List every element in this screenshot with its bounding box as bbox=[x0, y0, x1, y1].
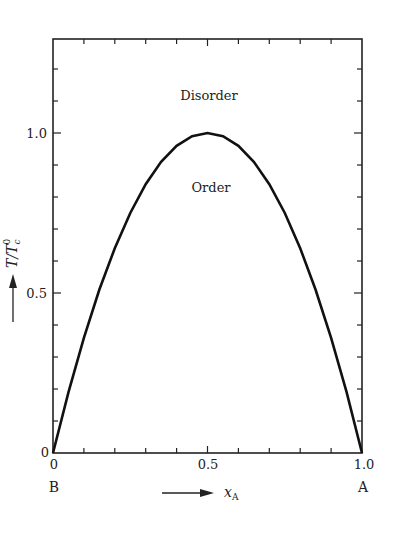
x-axis-title: xA bbox=[162, 484, 239, 502]
component-b-label: B bbox=[49, 479, 59, 495]
component-a-label: A bbox=[357, 479, 369, 495]
y-tick-label-05: 0.5 bbox=[26, 286, 47, 301]
y-tick-label-1: 1.0 bbox=[26, 126, 47, 141]
y-tick-label-0: 0 bbox=[41, 445, 49, 460]
disorder-label: Disorder bbox=[180, 88, 238, 103]
x-tick-label-1: 1.0 bbox=[354, 457, 375, 472]
y-axis-label: T/Tc0 bbox=[2, 239, 22, 268]
x-tick-label-0: 0 bbox=[50, 457, 58, 472]
phase-diagram-chart: Disorder Order 1.0 0.5 0 0 0.5 1.0 B A x… bbox=[0, 0, 395, 539]
order-label: Order bbox=[191, 180, 231, 195]
x-axis-label: xA bbox=[224, 484, 239, 502]
x-tick-label-05: 0.5 bbox=[198, 457, 219, 472]
y-axis-title: T/Tc0 bbox=[2, 239, 22, 322]
